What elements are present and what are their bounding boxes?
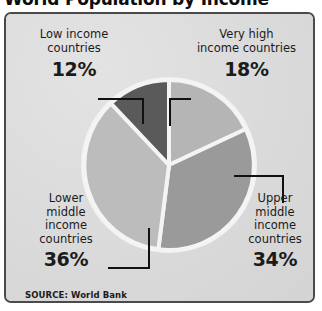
label-lower-middle-income-line4: countries <box>24 233 108 247</box>
label-lower-middle-income-percent: 36% <box>24 248 108 270</box>
label-lower-middle-income-line1: Lower <box>24 192 108 206</box>
source-credit: SOURCE: World Bank <box>25 290 127 300</box>
label-low-income-line1: Low income <box>20 28 128 42</box>
leader-line-very-high-income-vertical <box>169 98 171 126</box>
chart-title: World Population by Income <box>4 0 304 9</box>
label-upper-middle-income-line3: income <box>234 219 315 233</box>
label-lower-middle-income: Lower middle income countries 36% <box>24 192 108 270</box>
leader-line-low-income-vertical <box>142 98 144 124</box>
label-upper-middle-income: Upper middle income countries 34% <box>234 192 315 270</box>
leader-line-very-high-income-horizontal <box>169 98 191 100</box>
label-very-high-income: Very high income countries 18% <box>184 28 309 80</box>
label-very-high-income-line2: income countries <box>184 42 309 56</box>
label-upper-middle-income-percent: 34% <box>234 248 315 270</box>
leader-line-lower-middle-income-horizontal <box>108 267 150 269</box>
leader-line-upper-middle-income-horizontal <box>234 175 284 177</box>
label-low-income-percent: 12% <box>20 58 128 80</box>
label-lower-middle-income-line2: middle <box>24 206 108 220</box>
label-upper-middle-income-line1: Upper <box>234 192 315 206</box>
label-very-high-income-percent: 18% <box>184 58 309 80</box>
label-lower-middle-income-line3: income <box>24 219 108 233</box>
chart-figure: World Population by Income <box>0 0 322 311</box>
leader-line-low-income-horizontal <box>98 98 144 100</box>
leader-line-lower-middle-income-vertical <box>148 228 150 269</box>
label-very-high-income-line1: Very high <box>184 28 309 42</box>
label-upper-middle-income-line4: countries <box>234 233 315 247</box>
label-low-income-line2: countries <box>20 42 128 56</box>
label-upper-middle-income-line2: middle <box>234 206 315 220</box>
chart-panel: Low income countries 12% Very high incom… <box>4 12 315 303</box>
label-low-income: Low income countries 12% <box>20 28 128 80</box>
